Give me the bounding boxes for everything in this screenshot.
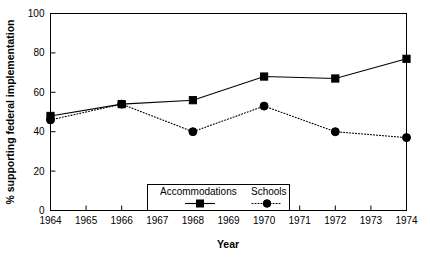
y-axis-title: % supporting federal implementation xyxy=(4,20,16,205)
x-tick-label: 1967 xyxy=(146,215,169,226)
y-tick-label: 80 xyxy=(33,47,45,58)
data-point-schools xyxy=(118,100,126,108)
data-point-accommodations xyxy=(261,73,268,80)
y-tick-label: 60 xyxy=(33,87,45,98)
plot-area-frame xyxy=(51,14,407,211)
chart-figure: 020406080100 196419651966196719681969197… xyxy=(0,0,430,265)
series-line-schools xyxy=(51,104,407,137)
x-tick-label: 1974 xyxy=(395,215,418,226)
data-point-accommodations xyxy=(332,75,339,82)
series-layer xyxy=(47,55,411,141)
x-tick-label: 1966 xyxy=(111,215,134,226)
x-tick-label: 1972 xyxy=(324,215,347,226)
series-line-accommodations xyxy=(51,59,407,116)
x-axis-title: Year xyxy=(217,238,239,250)
x-tick-label: 1965 xyxy=(75,215,98,226)
chart-legend: Accommodations Schools xyxy=(148,185,290,211)
legend-label-schools: Schools xyxy=(251,186,287,197)
data-point-schools xyxy=(331,128,339,136)
data-point-accommodations xyxy=(403,55,410,62)
y-tick-label: 100 xyxy=(28,8,45,19)
x-tick-label: 1970 xyxy=(253,215,276,226)
data-point-schools xyxy=(47,116,55,124)
y-tick-label: 40 xyxy=(33,126,45,137)
y-tick-label: 20 xyxy=(33,166,45,177)
line-chart: 020406080100 196419651966196719681969197… xyxy=(0,0,430,265)
data-point-schools xyxy=(403,134,411,142)
x-tick-label: 1968 xyxy=(182,215,205,226)
x-tick-label: 1969 xyxy=(217,215,240,226)
data-point-accommodations xyxy=(189,97,196,104)
data-point-schools xyxy=(260,102,268,110)
legend-label-accommodations: Accommodations xyxy=(160,186,237,197)
x-tick-label: 1973 xyxy=(360,215,383,226)
data-point-schools xyxy=(189,128,197,136)
x-tick-label: 1964 xyxy=(39,215,62,226)
x-tick-label: 1971 xyxy=(289,215,312,226)
